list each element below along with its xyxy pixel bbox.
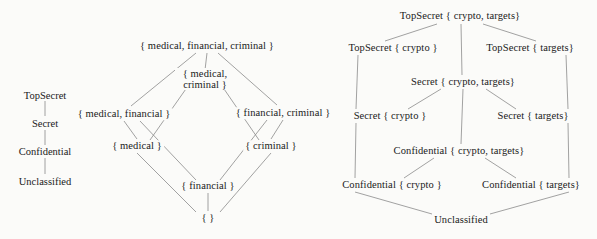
lattice-node-topsecret-crypto-targets: TopSecret { crypto, targets} [398,10,522,22]
clearance-level-confidential: Confidential [17,146,74,157]
lattice-node-secret-crypto-targets: Secret { crypto, targets} [409,76,517,88]
category-node-medical-criminal-line1: { medical, [177,68,233,79]
category-node-empty-set: { } [199,212,216,224]
clearance-level-topsecret: TopSecret [22,90,68,101]
lattice-figure-canvas: TopSecret Secret Confidential Unclassifi… [0,0,597,239]
category-node-medical-criminal-line2: criminal } [177,79,233,90]
category-node-medical: { medical } [110,140,164,152]
category-node-medical-criminal: { medical, criminal } [175,68,235,90]
clearance-level-unclassified: Unclassified [17,176,74,187]
lattice-node-confidential-crypto: Confidential { crypto } [340,179,444,191]
category-node-medical-financial-criminal: { medical, financial, criminal } [138,40,276,52]
lattice-node-topsecret-targets: TopSecret { targets} [484,42,576,54]
category-node-criminal: { criminal } [243,140,299,152]
lattice-node-confidential-targets: Confidential { targets} [480,179,582,191]
category-node-medical-financial: { medical, financial } [76,108,173,120]
lattice-node-secret-crypto: Secret { crypto } [352,110,429,122]
category-node-financial-criminal: { financial, criminal } [234,107,333,119]
category-node-financial: { financial } [179,180,236,192]
lattice-node-confidential-crypto-targets: Confidential { crypto, targets} [392,145,527,157]
lattice-node-secret-targets: Secret { targets} [495,110,570,122]
lattice-node-topsecret-crypto: TopSecret { crypto } [346,42,439,54]
clearance-level-secret: Secret [30,118,60,129]
lattice-node-unclassified: Unclassified [432,214,490,226]
